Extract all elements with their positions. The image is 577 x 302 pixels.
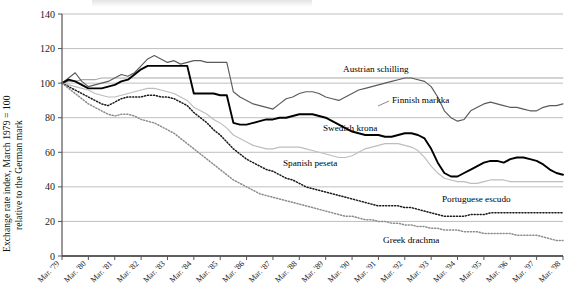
- series-label-austrian: Austrian schilling: [343, 64, 409, 74]
- series-label-greek: Greek drachma: [383, 235, 439, 245]
- series-label-portuguese: Portuguese escudo: [442, 194, 511, 204]
- svg-text:Mar. '97: Mar. '97: [511, 259, 536, 284]
- svg-text:Mar. '93: Mar. '93: [405, 259, 430, 284]
- svg-text:40: 40: [45, 181, 55, 192]
- svg-text:Mar. '92: Mar. '92: [379, 259, 404, 284]
- svg-text:Mar. '80: Mar. '80: [62, 259, 87, 284]
- svg-text:Mar. '83: Mar. '83: [141, 259, 166, 284]
- svg-text:Mar. '89: Mar. '89: [300, 259, 325, 284]
- svg-text:Mar. '88: Mar. '88: [273, 259, 298, 284]
- svg-text:Mar. '87: Mar. '87: [247, 259, 272, 284]
- svg-text:20: 20: [45, 216, 55, 227]
- svg-text:140: 140: [40, 9, 55, 20]
- x-axis-ticks: Mar. '79Mar. '80Mar. '81Mar. '82Mar. '83…: [36, 256, 563, 284]
- y-axis-ticks: 020406080100120140: [40, 9, 62, 262]
- chart-plot: 020406080100120140 Mar. '79Mar. '80Mar. …: [0, 0, 577, 302]
- series-label-swedish: Swedish krona: [323, 123, 377, 133]
- grid-lines: [62, 14, 563, 256]
- svg-text:Mar. '86: Mar. '86: [221, 259, 246, 284]
- svg-text:60: 60: [45, 147, 55, 158]
- series-line-spanish-peseta: [62, 83, 563, 183]
- series-label-finnish: Finnish markka: [392, 95, 449, 105]
- svg-text:Mar. '81: Mar. '81: [89, 259, 114, 284]
- series-line-austrian-schilling: [62, 78, 563, 83]
- chart-figure: Exchange rate index, March 1979 = 100 re…: [0, 0, 577, 302]
- series-label-spanish: Spanish peseta: [283, 158, 337, 168]
- svg-text:100: 100: [40, 78, 55, 89]
- svg-text:Mar. '95: Mar. '95: [458, 259, 483, 284]
- svg-text:Mar. '98: Mar. '98: [537, 259, 562, 284]
- series-line-finnish-markka: [62, 55, 563, 121]
- svg-text:Mar. '91: Mar. '91: [352, 259, 377, 284]
- series-annotations: Austrian schillingFinnish markkaSwedish …: [283, 64, 511, 245]
- svg-text:80: 80: [45, 112, 55, 123]
- svg-text:Mar. '79: Mar. '79: [36, 259, 61, 284]
- svg-text:Mar. '84: Mar. '84: [168, 259, 193, 284]
- svg-text:Mar. '90: Mar. '90: [326, 259, 351, 284]
- svg-text:Mar. '96: Mar. '96: [484, 259, 509, 284]
- svg-text:Mar. '94: Mar. '94: [432, 259, 457, 284]
- svg-text:Mar. '82: Mar. '82: [115, 259, 140, 284]
- svg-text:Mar. '85: Mar. '85: [194, 259, 219, 284]
- svg-text:120: 120: [40, 43, 55, 54]
